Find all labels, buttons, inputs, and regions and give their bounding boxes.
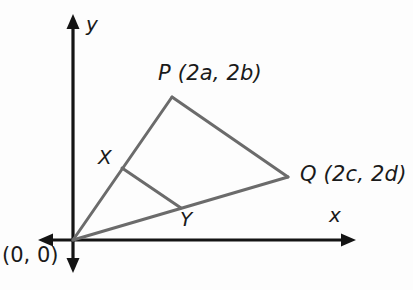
point-label-p: P (2a, 2b) xyxy=(158,63,262,84)
segment-pq xyxy=(172,97,288,177)
y-axis-arrow-up xyxy=(67,14,80,29)
y-axis-arrow-down xyxy=(67,258,80,273)
point-label-y: Y xyxy=(180,209,192,229)
point-label-x: X xyxy=(98,147,112,167)
x-axis-label: x xyxy=(329,205,341,225)
geometry-figure: P (2a, 2b) Q (2c, 2d) X Y x y (0, 0) xyxy=(0,0,413,290)
origin-label: (0, 0) xyxy=(2,245,58,266)
point-label-q: Q (2c, 2d) xyxy=(300,164,407,185)
y-axis-label: y xyxy=(86,14,98,34)
x-axis-arrow-right xyxy=(341,234,356,247)
segment-xy xyxy=(122,168,181,208)
diagram-canvas xyxy=(0,0,413,290)
axis-group xyxy=(38,14,356,273)
